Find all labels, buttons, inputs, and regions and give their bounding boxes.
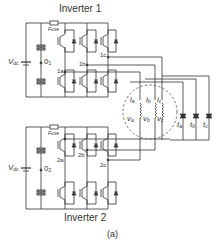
inverter-2-switches: [58, 134, 118, 204]
inverter-2-vdc-label: Vdc: [8, 164, 19, 172]
triac-tb-label: tb: [190, 121, 195, 129]
node-2a-label: 2a: [57, 157, 64, 163]
machine-boundary: [123, 85, 177, 139]
inverter-2-frame: [21, 125, 108, 209]
node-1a-label: 1a: [57, 68, 64, 74]
node-1b-label: 1b: [79, 61, 86, 67]
voltage-vc-label: vc: [157, 115, 164, 123]
dual-inverter-circuit: [0, 0, 218, 246]
voltage-va-label: va: [127, 115, 134, 123]
inverter-2-fuse-label: Fuse: [48, 131, 59, 136]
inverter-1-midpoint-label: 01: [44, 58, 51, 66]
figure-caption: (a): [107, 230, 118, 239]
node-2c-label: 2c: [100, 162, 106, 168]
inverter-1-fuse-label: Fuse: [48, 27, 59, 32]
current-ia-label: ia: [130, 96, 135, 104]
inverter-1-title: Inverter 1: [59, 4, 101, 14]
inverter-2-midpoint-label: 02: [44, 165, 51, 173]
current-ib-label: ib: [146, 96, 151, 104]
voltage-vb-label: vb: [143, 115, 150, 123]
triac-switches: [180, 114, 212, 118]
triac-ta-label: ta: [177, 121, 182, 129]
triac-tc-label: tc: [203, 121, 208, 129]
node-1c-label: 1c: [100, 52, 106, 58]
current-ic-label: ic: [157, 96, 161, 104]
inverter-2-title: Inverter 2: [64, 213, 106, 223]
phase-wiring: [64, 56, 209, 161]
inverter-1-vdc-label: Vdc: [8, 58, 19, 66]
node-2b-label: 2b: [78, 152, 85, 158]
